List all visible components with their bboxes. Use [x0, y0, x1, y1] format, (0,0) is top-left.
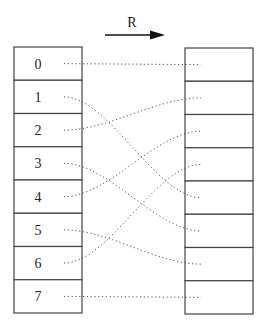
right-cell-7 [185, 281, 253, 314]
right-cell-3 [185, 148, 253, 181]
connection-1-to-4 [64, 97, 201, 198]
left-cell-label: 4 [35, 190, 42, 205]
left-cell-label: 3 [35, 156, 42, 171]
left-cell-3 [14, 147, 82, 180]
arrow-label: R [127, 15, 137, 30]
left-cell-label: 1 [35, 90, 42, 105]
right-cell-6 [185, 248, 253, 281]
connection-5-to-6 [64, 230, 201, 264]
connection-0-to-0 [64, 64, 201, 65]
connection-7-to-7 [64, 296, 201, 297]
left-cell-label: 0 [35, 57, 42, 72]
right-cell-0 [185, 48, 253, 81]
connections [64, 64, 201, 298]
left-cell-6 [14, 247, 82, 280]
connection-4-to-2 [64, 131, 201, 197]
right-cell-1 [185, 81, 253, 114]
right-cell-4 [185, 181, 253, 214]
left-cell-label: 5 [35, 223, 42, 238]
connection-3-to-5 [64, 163, 201, 231]
left-cell-label: 7 [35, 289, 42, 304]
left-cell-4 [14, 180, 82, 213]
permutation-diagram: R 01234567 [0, 0, 263, 327]
left-cell-label: 2 [35, 123, 42, 138]
arrow: R [105, 15, 165, 40]
connection-6-to-3 [64, 164, 201, 263]
left-cell-label: 6 [35, 256, 42, 271]
left-cell-1 [14, 80, 82, 113]
connection-2-to-1 [64, 98, 201, 130]
left-array: 01234567 [14, 47, 82, 313]
right-array [185, 48, 253, 314]
arrow-head-icon [150, 31, 165, 40]
